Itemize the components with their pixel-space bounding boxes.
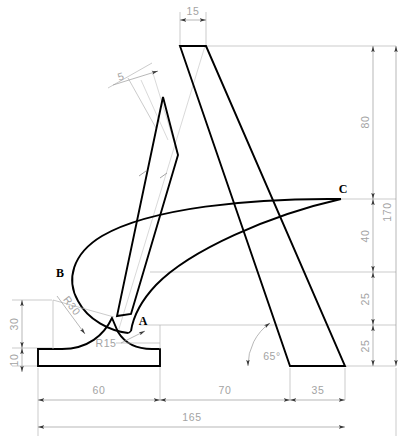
tick-mark-left — [139, 171, 146, 176]
point-label-b: B — [56, 266, 64, 280]
dim-label-15: 15 — [187, 5, 200, 17]
dim-label-30: 30 — [8, 318, 20, 331]
dim-label-r15: R15 — [95, 337, 116, 349]
dimension-left-chain: 30 10 — [8, 300, 22, 372]
dim-label-80: 80 — [359, 116, 371, 129]
dim-label-25-lower: 25 — [359, 340, 371, 353]
dimension-angle: 65° — [248, 323, 281, 366]
dim-label-60: 60 — [93, 384, 106, 396]
point-label-c: C — [339, 182, 348, 196]
dim-label-40: 40 — [359, 230, 371, 243]
extension-lines — [12, 12, 396, 436]
technical-drawing-canvas: 15 5 80 40 25 25 170 30 10 60 70 35 165 — [0, 0, 418, 447]
dim-label-35: 35 — [312, 384, 325, 396]
dim-label-170: 170 — [381, 202, 393, 221]
swoosh-tip-join — [128, 331, 131, 333]
dim-label-25-upper: 25 — [359, 293, 371, 306]
point-labels: B C A — [56, 182, 347, 328]
swoosh-inner-curve — [131, 199, 341, 331]
point-label-a: A — [139, 314, 148, 328]
construction-lines — [118, 46, 205, 332]
ext-line-stroke-5-b — [128, 78, 156, 128]
cad-drawing-svg: 15 5 80 40 25 25 170 30 10 60 70 35 165 — [0, 0, 418, 447]
dimension-bottom-chain: 60 70 35 165 — [38, 384, 345, 427]
dimension-stroke-width: 5 — [113, 69, 158, 85]
letter-a-left-stroke — [117, 97, 178, 316]
dimension-right-chain: 80 40 25 25 170 — [359, 46, 396, 366]
dim-label-65: 65° — [263, 350, 281, 362]
equal-length-ticks — [139, 171, 167, 178]
dim-label-5: 5 — [116, 69, 126, 82]
dim-label-10: 10 — [8, 354, 20, 367]
dim-label-70: 70 — [219, 384, 232, 396]
dim-label-165: 165 — [182, 411, 201, 423]
dimension-top-width: 15 — [180, 5, 206, 20]
construction-line-apex-to-a — [118, 46, 205, 332]
